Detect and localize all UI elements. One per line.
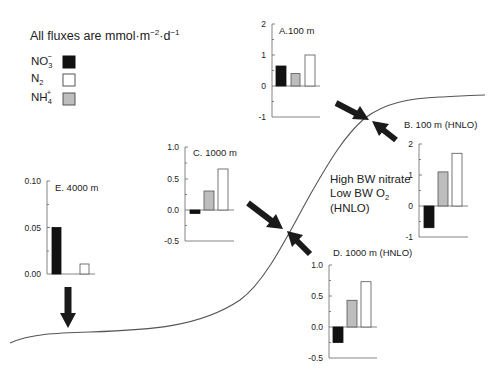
svg-text:1: 1 (261, 50, 266, 60)
panel-b: B. 100 m (HNLO) 2 1 0 -1 (404, 119, 477, 242)
svg-text:1.0: 1.0 (311, 260, 323, 270)
bar-a-nitrate (276, 66, 286, 86)
svg-text:0.05: 0.05 (24, 223, 41, 233)
svg-text:-1: -1 (405, 232, 413, 242)
svg-text:NO3−: NO3− (31, 52, 52, 70)
svg-text:0: 0 (408, 201, 413, 211)
arrow-b (372, 121, 396, 140)
svg-text:0.10: 0.10 (24, 176, 41, 186)
svg-text:NH4+: NH4+ (31, 88, 52, 106)
arrow-e (60, 287, 76, 328)
panel-c: 1.0 0.5 0.0 -0.5 C. 1000 m (164, 142, 237, 246)
bar-d-ammonium (347, 300, 357, 327)
legend-item-n2: N2 (31, 72, 75, 87)
svg-text:0.5: 0.5 (167, 174, 179, 184)
figure: All fluxes are mmol·m−2·d−1 NO3− N2 NH4+ (0, 0, 493, 376)
legend-swatch-ammonium (63, 93, 75, 105)
panel-e: 0.10 0.05 0.00 E. 4000 m (24, 176, 98, 279)
svg-text:Low BW O2: Low BW O2 (330, 187, 389, 202)
arrow-d (287, 231, 310, 254)
arrow-c (248, 203, 283, 229)
bar-c-ammonium (204, 191, 214, 210)
bar-a-n2 (305, 55, 315, 86)
bar-d-n2 (361, 282, 371, 327)
svg-text:High BW nitrate: High BW nitrate (330, 173, 411, 185)
svg-text:1: 1 (408, 170, 413, 180)
svg-text:1.0: 1.0 (167, 142, 179, 152)
legend-swatch-n2 (63, 74, 75, 86)
panel-e-title: E. 4000 m (55, 182, 98, 193)
bar-e-n2 (80, 264, 89, 274)
arrow-a (336, 103, 369, 120)
bar-e-nitrate (52, 228, 61, 275)
bar-c-nitrate (190, 210, 200, 214)
svg-text:2: 2 (261, 19, 266, 29)
panel-d-title: D. 1000 m (HNLO) (333, 247, 412, 258)
bar-d-nitrate (333, 327, 343, 343)
panel-a: 2 1 0 -1 A.100 m (258, 19, 320, 122)
svg-text:0.5: 0.5 (311, 291, 323, 301)
svg-text:0.00: 0.00 (24, 269, 41, 279)
legend-item-ammonium: NH4+ (31, 88, 75, 106)
bar-c-n2 (218, 169, 228, 210)
panel-b-title: B. 100 m (HNLO) (404, 119, 477, 130)
svg-text:0: 0 (261, 81, 266, 91)
seafloor-profile-line (10, 95, 485, 343)
panel-a-title: A.100 m (279, 25, 314, 36)
bar-b-ammonium (438, 172, 448, 206)
svg-text:-0.5: -0.5 (164, 236, 179, 246)
svg-text:-1: -1 (258, 112, 266, 122)
legend: All fluxes are mmol·m−2·d−1 NO3− N2 NH4+ (30, 28, 180, 106)
bar-a-ammonium (291, 74, 300, 86)
svg-text:2: 2 (408, 139, 413, 149)
svg-text:-0.5: -0.5 (308, 353, 323, 363)
units-label: All fluxes are mmol·m−2·d−1 (30, 28, 180, 43)
bar-b-nitrate (424, 206, 434, 228)
svg-text:0.0: 0.0 (311, 322, 323, 332)
legend-swatch-nitrate (63, 56, 75, 68)
svg-text:(HNLO): (HNLO) (330, 202, 370, 214)
panel-d: D. 1000 m (HNLO) 1.0 0.5 0.0 -0.5 (308, 247, 412, 363)
svg-text:N2: N2 (31, 72, 43, 87)
hnlo-annotation: High BW nitrate Low BW O2 (HNLO) (330, 173, 411, 214)
legend-item-nitrate: NO3− (31, 52, 75, 70)
bar-b-n2 (452, 153, 462, 206)
svg-text:0.0: 0.0 (167, 205, 179, 215)
panel-c-title: C. 1000 m (193, 147, 237, 158)
